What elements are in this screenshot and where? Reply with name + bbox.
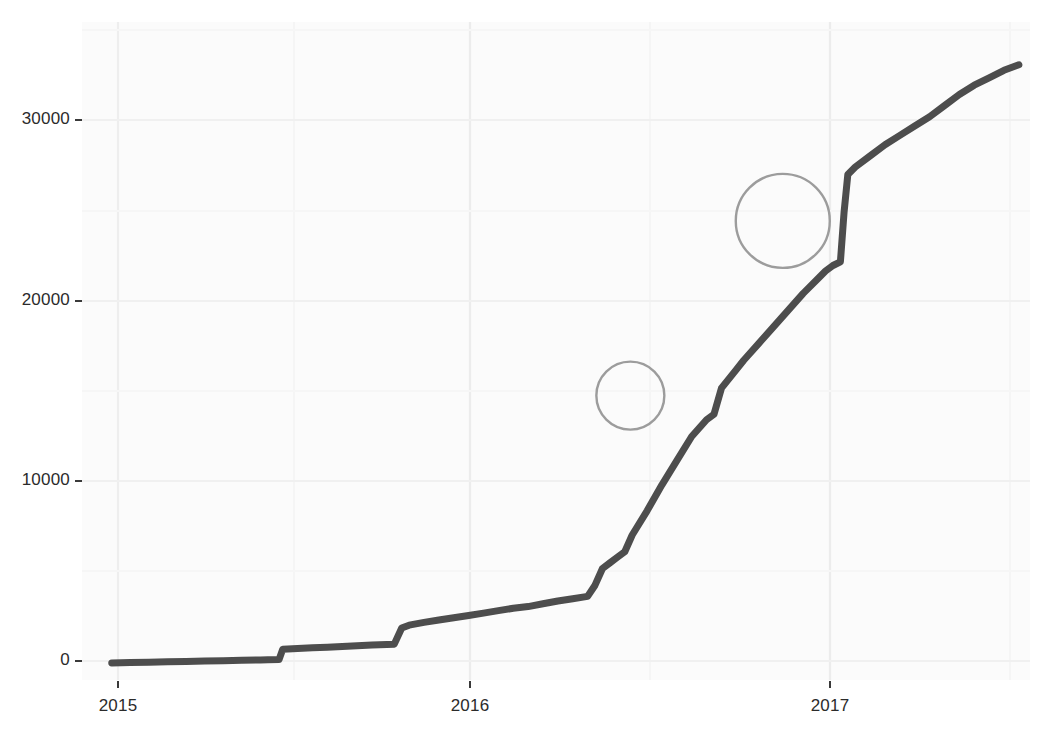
x-axis-tick-label-2017: 2017 bbox=[790, 696, 870, 716]
x-axis-tick-label-2015: 2015 bbox=[78, 696, 158, 716]
jump-highlight-1 bbox=[596, 362, 664, 430]
chart-container: 30000 20000 10000 0 2015 2016 2017 bbox=[0, 0, 1042, 737]
y-tick-mark-30000 bbox=[75, 119, 82, 121]
data-series-line bbox=[112, 65, 1019, 663]
y-tick-mark-10000 bbox=[75, 480, 82, 482]
x-tick-mark-2015 bbox=[117, 681, 119, 688]
x-axis-tick-label-2016: 2016 bbox=[430, 696, 510, 716]
y-axis-tick-label-30000: 30000 bbox=[0, 109, 70, 129]
y-axis-tick-label-0: 0 bbox=[0, 650, 70, 670]
jump-highlight-2 bbox=[736, 174, 830, 268]
y-tick-mark-0 bbox=[75, 660, 82, 662]
y-axis-tick-label-20000: 20000 bbox=[0, 290, 70, 310]
chart-plot-svg bbox=[0, 0, 1042, 737]
y-axis-tick-label-10000: 10000 bbox=[0, 470, 70, 490]
x-tick-mark-2017 bbox=[829, 681, 831, 688]
y-tick-mark-20000 bbox=[75, 300, 82, 302]
x-tick-mark-2016 bbox=[469, 681, 471, 688]
